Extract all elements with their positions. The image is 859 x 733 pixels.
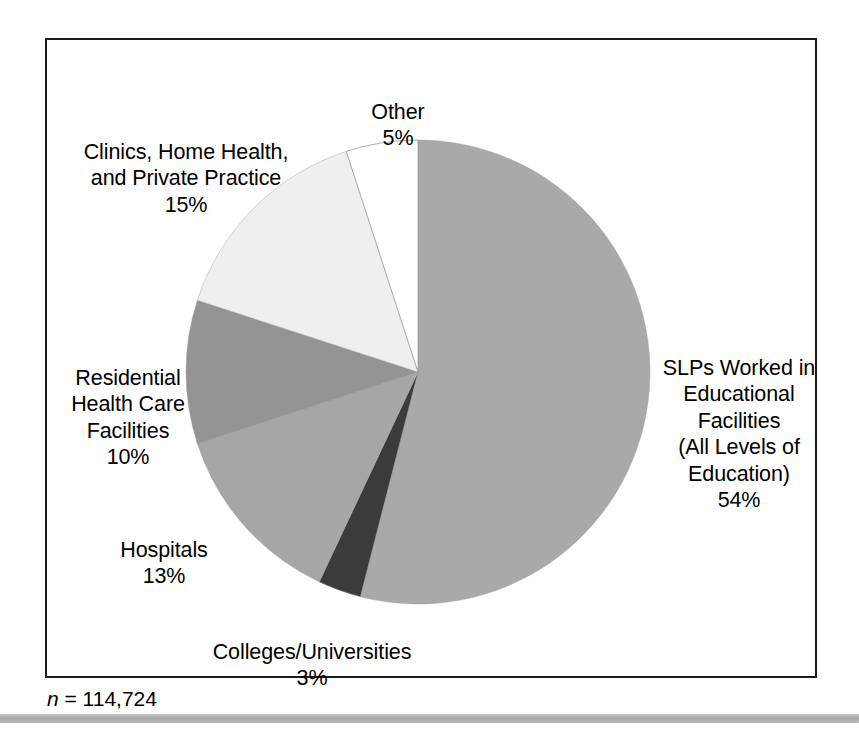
- figure-container: Other 5% Clinics, Home Health, and Priva…: [0, 0, 859, 733]
- sample-size-symbol: n: [47, 687, 59, 710]
- pie-label-slps-percent: 54%: [646, 487, 832, 514]
- pie-label-colleges-universities: Colleges/Universities 3%: [172, 612, 452, 718]
- sample-size-footnote: n = 114,724: [47, 686, 157, 712]
- pie-label-hospitals-text: Hospitals: [120, 538, 208, 562]
- pie-label-slps-educational: SLPs Worked in Educational Facilities (A…: [646, 328, 832, 540]
- pie-label-residential-percent: 10%: [15, 444, 241, 471]
- pie-label-slps-text: SLPs Worked in Educational Facilities (A…: [663, 356, 815, 486]
- sample-size-value: = 114,724: [59, 687, 157, 710]
- pie-label-other-text: Other: [371, 100, 424, 124]
- pie-label-residential-health-care: Residential Health Care Facilities 10%: [15, 338, 241, 497]
- pie-label-colleges-percent: 3%: [172, 665, 452, 692]
- pie-label-clinics-text: Clinics, Home Health, and Private Practi…: [84, 140, 289, 191]
- pie-label-hospitals: Hospitals 13%: [58, 510, 270, 616]
- pie-label-hospitals-percent: 13%: [58, 563, 270, 590]
- pie-label-clinics-percent: 15%: [36, 192, 336, 219]
- pie-label-colleges-text: Colleges/Universities: [213, 640, 412, 664]
- pie-label-residential-text: Residential Health Care Facilities: [71, 366, 185, 443]
- bottom-divider-rule: [0, 714, 859, 723]
- pie-label-clinics-home-health-private-practice: Clinics, Home Health, and Private Practi…: [36, 112, 336, 245]
